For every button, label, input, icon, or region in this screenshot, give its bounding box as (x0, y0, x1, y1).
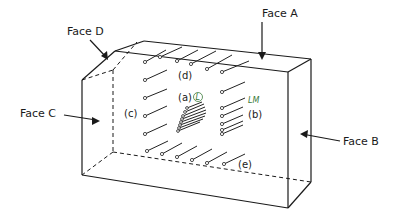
group-d-label: (d) (178, 70, 192, 81)
face-b-callout: Face B (300, 130, 379, 148)
face-c-callout: Face C (20, 107, 100, 125)
group-a-label: (a) (178, 92, 192, 103)
face-d-label: Face D (67, 25, 104, 38)
circled-annotation-text: L (196, 93, 200, 102)
cracks-b-column (220, 82, 245, 136)
group-e-label: (e) (238, 159, 252, 170)
group-c-label: (c) (124, 108, 137, 119)
face-c-label: Face C (20, 107, 56, 120)
face-a-callout: Face A (258, 7, 298, 60)
group-b-label: (b) (248, 109, 262, 120)
arrow-left-icon (300, 130, 308, 138)
block-edges (82, 41, 311, 208)
cracks-e-bottom (145, 141, 245, 166)
arrow-down-icon (258, 52, 266, 60)
handwritten-note: LM (248, 96, 259, 105)
face-a-label: Face A (262, 7, 298, 20)
cracks-a-cluster (177, 102, 206, 132)
arrow-right-icon (92, 117, 100, 125)
hidden-edges (82, 42, 311, 182)
face-b-label: Face B (343, 135, 379, 148)
block-diagram: Face A Face B Face C Face D (d) (a) L LM… (0, 0, 400, 222)
face-d-callout: Face D (67, 25, 108, 60)
cracks-c-column (143, 70, 167, 136)
